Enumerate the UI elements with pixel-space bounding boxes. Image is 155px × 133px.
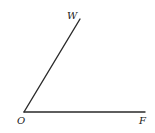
label-f: F	[138, 115, 147, 126]
ray-ow	[24, 19, 80, 112]
label-o: O	[17, 115, 25, 126]
label-w: W	[67, 10, 78, 21]
angle-diagram: W O F	[0, 0, 155, 133]
